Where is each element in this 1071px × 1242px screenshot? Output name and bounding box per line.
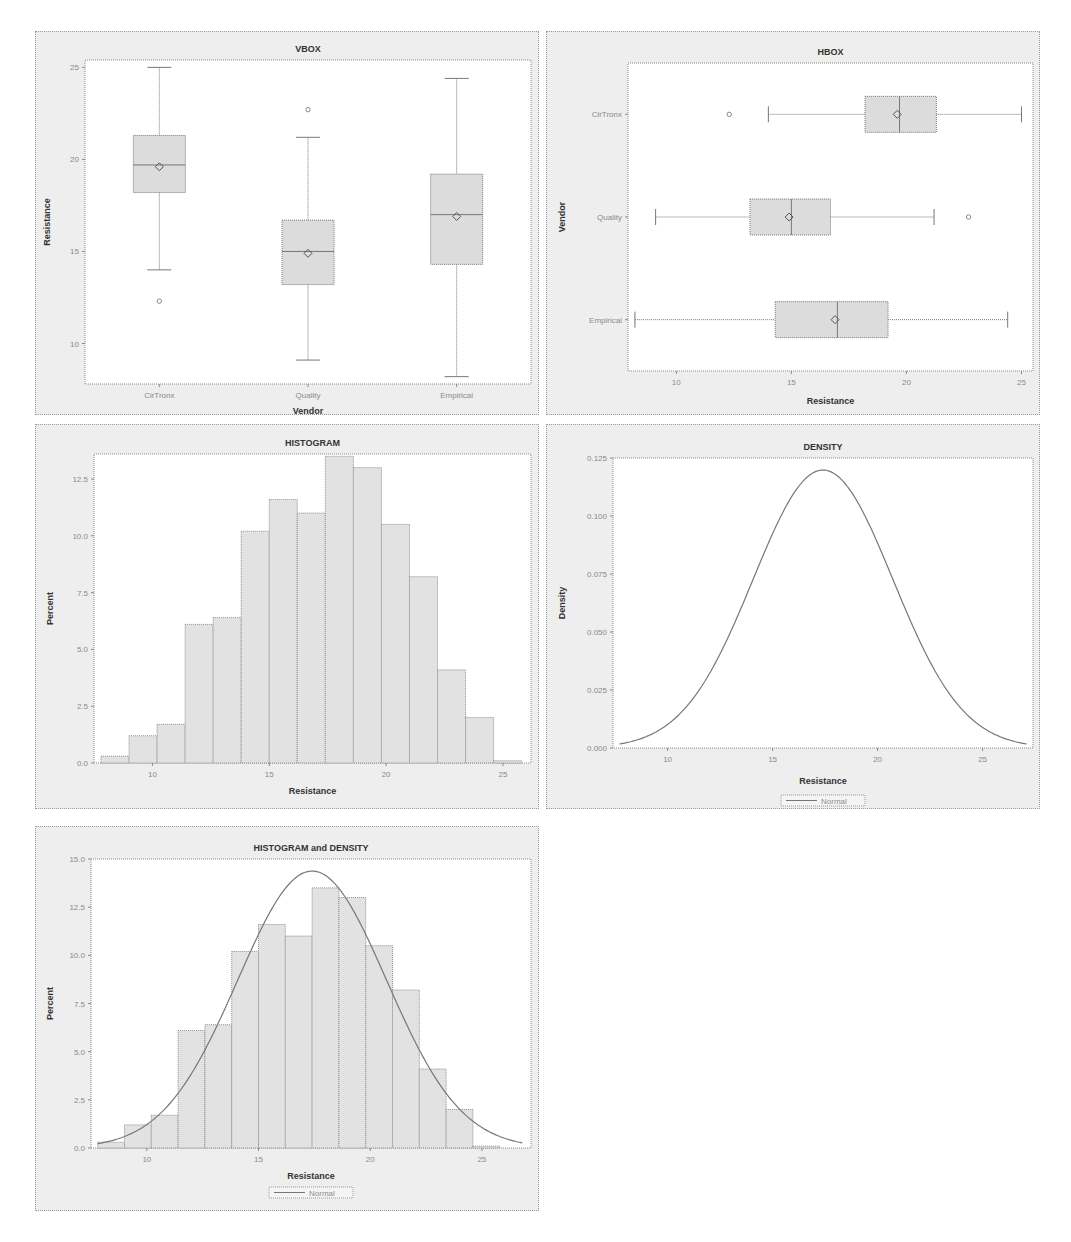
histdensity-bar: [419, 1069, 446, 1148]
vbox-title: VBOX: [295, 44, 321, 54]
histogram-bar: [269, 499, 297, 763]
histogram-bar: [157, 724, 185, 763]
histogram-x-tick-label: 10: [148, 770, 157, 779]
histogram-y-tick-label: 0.0: [77, 759, 89, 768]
histogram-bar: [353, 468, 381, 763]
hbox-box: [750, 199, 831, 235]
density-legend-label: Normal: [821, 797, 847, 806]
density-x-tick-label: 20: [873, 755, 882, 764]
density-y-tick-label: 0.025: [587, 686, 608, 695]
hbox-y-tick-label: Quality: [597, 213, 622, 222]
histdensity-bar: [473, 1146, 500, 1148]
hbox-x-axis-label: Resistance: [807, 396, 855, 406]
histdensity-bar: [151, 1115, 178, 1148]
histdensity-y-tick-label: 12.5: [69, 903, 85, 912]
density-y-tick-label: 0.075: [587, 570, 608, 579]
vbox-x-axis-label: Vendor: [293, 406, 324, 416]
histdensity-y-tick-label: 15.0: [69, 855, 85, 864]
density-x-tick-label: 25: [978, 755, 987, 764]
density-x-tick-label: 15: [768, 755, 777, 764]
histogram-bar: [101, 756, 129, 763]
density-y-tick-label: 0.050: [587, 628, 608, 637]
histdensity-bar: [259, 925, 286, 1148]
histogram-bar: [438, 670, 466, 763]
vbox-y-tick-label: 25: [70, 63, 79, 72]
histogram-bar: [213, 618, 241, 763]
histogram-y-tick-label: 7.5: [77, 589, 89, 598]
density-title: DENSITY: [803, 442, 842, 452]
density-x-tick-label: 10: [663, 755, 672, 764]
histdensity-bar: [312, 888, 339, 1148]
histdensity-x-tick-label: 10: [142, 1155, 151, 1164]
hbox-y-tick-label: CirTronx: [592, 110, 622, 119]
hbox-y-axis-label: Vendor: [557, 201, 567, 232]
density-y-tick-label: 0.100: [587, 512, 608, 521]
histdensity-y-tick-label: 5.0: [74, 1048, 86, 1057]
histdensity-y-tick-label: 7.5: [74, 1000, 86, 1009]
density-x-axis-label: Resistance: [799, 776, 847, 786]
vbox-panel: VBOX10152025CirTronxQualityEmpiricalResi…: [35, 31, 539, 415]
histogram-y-tick-label: 10.0: [72, 532, 88, 541]
vbox-box: [133, 135, 185, 192]
histogram-x-tick-label: 20: [382, 770, 391, 779]
density-panel: DENSITY0.0000.0250.0500.0750.1000.125101…: [546, 424, 1040, 809]
vbox-x-tick-label: Empirical: [440, 391, 473, 400]
density-chart: DENSITY0.0000.0250.0500.0750.1000.125101…: [547, 425, 1041, 810]
histogram-x-tick-label: 15: [265, 770, 274, 779]
histogram-panel: HISTOGRAM0.02.55.07.510.012.510152025Per…: [35, 424, 539, 809]
histogram-y-tick-label: 12.5: [72, 475, 88, 484]
histdensity-y-tick-label: 0.0: [74, 1144, 86, 1153]
histdensity-bar: [232, 951, 259, 1148]
vbox-y-tick-label: 15: [70, 247, 79, 256]
histogram-title: HISTOGRAM: [285, 438, 340, 448]
histogram-x-tick-label: 25: [499, 770, 508, 779]
vbox-x-tick-label: Quality: [296, 391, 321, 400]
vbox-y-axis-label: Resistance: [42, 198, 52, 246]
hbox-x-tick-label: 20: [902, 378, 911, 387]
histdensity-x-tick-label: 25: [477, 1155, 486, 1164]
density-y-axis-label: Density: [557, 587, 567, 620]
histogram-chart: HISTOGRAM0.02.55.07.510.012.510152025Per…: [36, 425, 540, 810]
hbox-title: HBOX: [817, 47, 843, 57]
histogram-bar: [297, 513, 325, 763]
histdensity-bar: [366, 946, 393, 1148]
histdensity-title: HISTOGRAM and DENSITY: [254, 843, 369, 853]
histdensity-x-tick-label: 15: [254, 1155, 263, 1164]
hbox-x-tick-label: 15: [787, 378, 796, 387]
histogram-y-axis-label: Percent: [45, 592, 55, 625]
histogram-bar: [409, 577, 437, 763]
histdensity-x-tick-label: 20: [366, 1155, 375, 1164]
histdensity-x-axis-label: Resistance: [287, 1171, 335, 1181]
histogram-bar: [185, 624, 213, 763]
histogram-x-axis-label: Resistance: [289, 786, 337, 796]
histogram-bar: [325, 456, 353, 763]
hbox-x-tick-label: 25: [1017, 378, 1026, 387]
hbox-y-tick-label: Empirical: [589, 316, 622, 325]
density-y-tick-label: 0.000: [587, 744, 608, 753]
hbox-chart: HBOX10152025CirTronxQualityEmpiricalVend…: [547, 32, 1041, 416]
histogram-density-panel: HISTOGRAM and DENSITY0.02.55.07.510.012.…: [35, 826, 539, 1211]
vbox-chart: VBOX10152025CirTronxQualityEmpiricalResi…: [36, 32, 540, 416]
histdensity-bar: [446, 1109, 473, 1148]
histogram-density-chart: HISTOGRAM and DENSITY0.02.55.07.510.012.…: [36, 827, 540, 1212]
vbox-y-tick-label: 20: [70, 155, 79, 164]
histdensity-bar: [285, 936, 312, 1148]
vbox-box: [431, 174, 483, 264]
histdensity-legend-label: Normal: [309, 1189, 335, 1198]
density-plot-area: [613, 458, 1033, 748]
vbox-x-tick-label: CirTronx: [144, 391, 174, 400]
histogram-bar: [466, 718, 494, 763]
vbox-y-tick-label: 10: [70, 340, 79, 349]
histogram-bar: [494, 761, 522, 763]
histdensity-y-tick-label: 2.5: [74, 1096, 86, 1105]
histdensity-bar: [339, 898, 366, 1148]
histogram-bar: [129, 736, 157, 763]
density-y-tick-label: 0.125: [587, 454, 608, 463]
histogram-bar: [241, 531, 269, 763]
histogram-y-tick-label: 5.0: [77, 645, 89, 654]
histdensity-bar: [393, 990, 420, 1148]
histdensity-y-axis-label: Percent: [45, 987, 55, 1020]
histdensity-bar: [125, 1125, 152, 1148]
histdensity-bar: [178, 1030, 205, 1148]
histogram-y-tick-label: 2.5: [77, 702, 89, 711]
